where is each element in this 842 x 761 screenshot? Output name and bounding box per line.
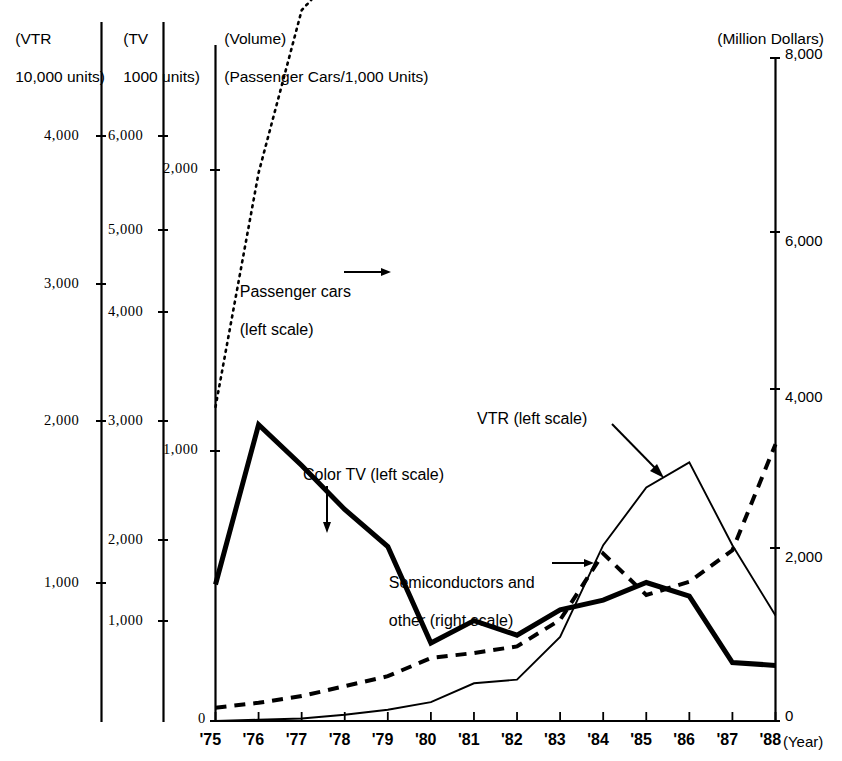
axis-lines (102, 22, 777, 722)
leader-vtr (612, 424, 658, 471)
series-line-semiconductors (216, 444, 776, 708)
leader-arrow-color-tv (323, 522, 331, 533)
leader-semiconductors-up (594, 543, 618, 563)
data-series (216, 0, 776, 721)
series-line-vtr (216, 462, 776, 721)
series-line-color (216, 425, 776, 666)
annotation-leaders (323, 268, 664, 567)
chart-figure: (VTR 10,000 units) (TV 1000 units) (Volu… (0, 0, 842, 761)
series-line-passenger (216, 0, 776, 407)
plot-area (0, 0, 842, 761)
axis-ticks (96, 58, 780, 721)
leader-arrow-passenger-cars (381, 268, 391, 276)
